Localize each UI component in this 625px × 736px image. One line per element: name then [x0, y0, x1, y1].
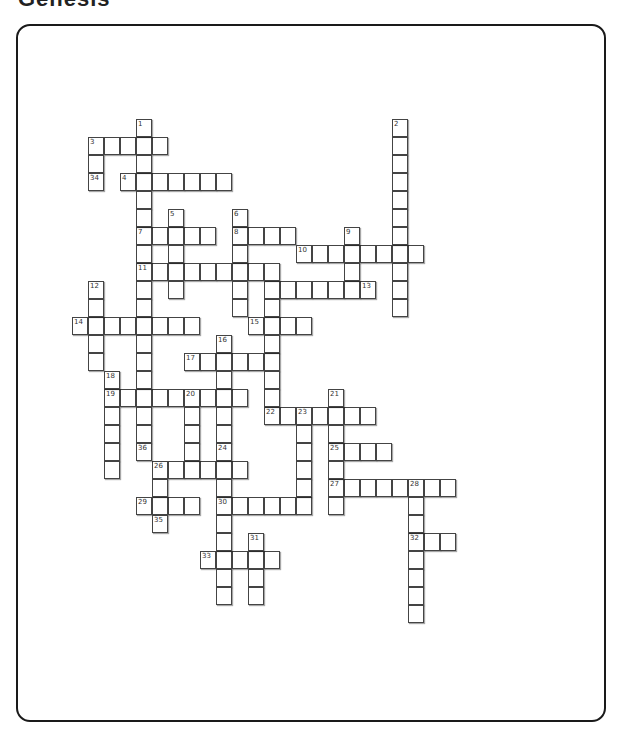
crossword-cell[interactable] [424, 479, 440, 497]
crossword-cell[interactable] [440, 533, 456, 551]
crossword-cell[interactable] [184, 317, 200, 335]
crossword-cell[interactable] [392, 281, 408, 299]
crossword-cell[interactable]: 22 [264, 407, 280, 425]
crossword-cell[interactable] [88, 317, 104, 335]
crossword-cell[interactable] [216, 479, 232, 497]
crossword-cell[interactable]: 32 [408, 533, 424, 551]
crossword-cell[interactable] [168, 263, 184, 281]
crossword-cell[interactable] [216, 425, 232, 443]
crossword-cell[interactable]: 13 [360, 281, 376, 299]
crossword-cell[interactable] [376, 443, 392, 461]
crossword-cell[interactable]: 17 [184, 353, 200, 371]
crossword-cell[interactable] [168, 245, 184, 263]
crossword-cell[interactable] [392, 191, 408, 209]
crossword-cell[interactable] [344, 443, 360, 461]
crossword-cell[interactable]: 2 [392, 119, 408, 137]
crossword-cell[interactable] [184, 425, 200, 443]
crossword-cell[interactable] [168, 497, 184, 515]
crossword-cell[interactable] [152, 173, 168, 191]
crossword-cell[interactable] [104, 425, 120, 443]
crossword-cell[interactable]: 27 [328, 479, 344, 497]
crossword-cell[interactable] [184, 407, 200, 425]
crossword-cell[interactable] [152, 317, 168, 335]
crossword-cell[interactable] [216, 515, 232, 533]
crossword-cell[interactable] [280, 317, 296, 335]
crossword-cell[interactable] [104, 407, 120, 425]
crossword-cell[interactable] [216, 551, 232, 569]
crossword-cell[interactable] [104, 317, 120, 335]
crossword-cell[interactable]: 26 [152, 461, 168, 479]
crossword-cell[interactable] [200, 389, 216, 407]
crossword-cell[interactable] [344, 245, 360, 263]
crossword-cell[interactable] [264, 227, 280, 245]
crossword-cell[interactable] [376, 479, 392, 497]
crossword-cell[interactable] [184, 263, 200, 281]
crossword-cell[interactable] [232, 353, 248, 371]
crossword-cell[interactable] [104, 443, 120, 461]
crossword-cell[interactable]: 18 [104, 371, 120, 389]
crossword-cell[interactable] [136, 155, 152, 173]
crossword-cell[interactable] [264, 263, 280, 281]
crossword-cell[interactable] [216, 389, 232, 407]
crossword-cell[interactable]: 3 [88, 137, 104, 155]
crossword-cell[interactable]: 1 [136, 119, 152, 137]
crossword-cell[interactable] [312, 407, 328, 425]
crossword-cell[interactable] [184, 497, 200, 515]
crossword-cell[interactable] [104, 137, 120, 155]
crossword-cell[interactable] [216, 173, 232, 191]
crossword-cell[interactable] [200, 263, 216, 281]
crossword-cell[interactable]: 21 [328, 389, 344, 407]
crossword-cell[interactable] [264, 389, 280, 407]
crossword-cell[interactable] [136, 137, 152, 155]
crossword-cell[interactable] [296, 497, 312, 515]
crossword-cell[interactable] [408, 551, 424, 569]
crossword-cell[interactable] [216, 461, 232, 479]
crossword-cell[interactable] [168, 317, 184, 335]
crossword-cell[interactable] [136, 371, 152, 389]
crossword-cell[interactable] [88, 155, 104, 173]
crossword-cell[interactable] [152, 389, 168, 407]
crossword-cell[interactable] [232, 551, 248, 569]
crossword-cell[interactable] [152, 497, 168, 515]
crossword-cell[interactable] [392, 209, 408, 227]
crossword-cell[interactable] [392, 245, 408, 263]
crossword-cell[interactable]: 11 [136, 263, 152, 281]
crossword-cell[interactable] [344, 281, 360, 299]
crossword-cell[interactable] [408, 605, 424, 623]
crossword-cell[interactable] [344, 479, 360, 497]
crossword-cell[interactable] [328, 281, 344, 299]
crossword-cell[interactable] [296, 479, 312, 497]
crossword-cell[interactable] [280, 407, 296, 425]
crossword-cell[interactable]: 35 [152, 515, 168, 533]
crossword-cell[interactable] [248, 263, 264, 281]
crossword-cell[interactable] [88, 335, 104, 353]
crossword-cell[interactable] [392, 227, 408, 245]
crossword-cell[interactable] [216, 407, 232, 425]
crossword-cell[interactable]: 29 [136, 497, 152, 515]
crossword-cell[interactable] [232, 263, 248, 281]
crossword-cell[interactable] [408, 587, 424, 605]
crossword-cell[interactable] [136, 209, 152, 227]
crossword-cell[interactable] [120, 137, 136, 155]
crossword-cell[interactable] [168, 461, 184, 479]
crossword-cell[interactable] [264, 371, 280, 389]
crossword-cell[interactable] [136, 281, 152, 299]
crossword-cell[interactable] [136, 407, 152, 425]
crossword-cell[interactable] [216, 533, 232, 551]
crossword-cell[interactable] [248, 587, 264, 605]
crossword-cell[interactable] [248, 227, 264, 245]
crossword-cell[interactable]: 9 [344, 227, 360, 245]
crossword-cell[interactable]: 6 [232, 209, 248, 227]
crossword-cell[interactable] [152, 263, 168, 281]
crossword-cell[interactable] [136, 389, 152, 407]
crossword-cell[interactable] [328, 245, 344, 263]
crossword-cell[interactable] [184, 227, 200, 245]
crossword-cell[interactable]: 24 [216, 443, 232, 461]
crossword-cell[interactable] [216, 371, 232, 389]
crossword-cell[interactable] [168, 281, 184, 299]
crossword-cell[interactable] [168, 227, 184, 245]
crossword-cell[interactable] [392, 263, 408, 281]
crossword-cell[interactable] [248, 353, 264, 371]
crossword-cell[interactable] [360, 443, 376, 461]
crossword-cell[interactable] [248, 551, 264, 569]
